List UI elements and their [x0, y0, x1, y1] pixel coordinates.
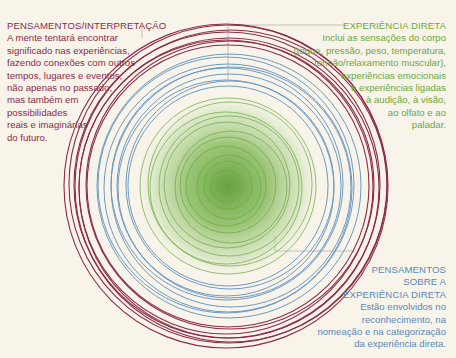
thoughts-text-line: Estão envolvidos no	[266, 301, 446, 313]
interpretation-text-line: do futuro.	[7, 132, 157, 144]
thoughts-text-line: da experiência direta.	[266, 338, 446, 350]
thoughts-text-line: nomeação e na categorização	[266, 326, 446, 338]
thoughts-title-line: EXPERIÊNCIA DIRETA	[266, 289, 446, 301]
interpretation-text-line: não apenas no passado,	[7, 82, 157, 94]
direct-experience-text-line: paladar.	[276, 119, 446, 131]
interpretation-text-line: possibilidades	[7, 107, 157, 119]
interpretation-text-line: tempos, lugares e eventos,	[7, 70, 157, 82]
direct-experience-text-line: (toque, pressão, peso, temperatura,	[276, 45, 446, 57]
interpretation-text-line: A mente tentará encontrar	[7, 32, 157, 44]
direct-experience-title: EXPERIÊNCIA DIRETA	[276, 20, 446, 32]
thoughts-title-line: PENSAMENTOS	[266, 264, 446, 276]
thoughts-title-line: SOBRE A	[266, 276, 446, 288]
interpretation-text-line: reais e imaginárias	[7, 119, 157, 131]
direct-experience-text-line: ao olfato e ao	[276, 107, 446, 119]
direct-experience-text-line: experiências emocionais	[276, 70, 446, 82]
interpretation-text-line: significado nas experiências,	[7, 45, 157, 57]
direct-experience-text-line: e experiências ligadas	[276, 82, 446, 94]
interpretation-text-line: mas também em	[7, 94, 157, 106]
direct-experience-label: EXPERIÊNCIA DIRETA Inclui as sensações d…	[276, 20, 446, 132]
thoughts-text-line: reconhecimento, na	[266, 314, 446, 326]
direct-experience-text-line: Inclui as sensações do corpo	[276, 32, 446, 44]
direct-experience-text-line: à audição, à visão,	[276, 94, 446, 106]
interpretation-label: PENSAMENTOS/INTERPRETAÇÃO A mente tentar…	[7, 20, 157, 144]
interpretation-text-line: fazendo conexões com outros	[7, 57, 157, 69]
interpretation-title: PENSAMENTOS/INTERPRETAÇÃO	[7, 20, 157, 32]
direct-experience-text-line: tensão/relaxamento muscular),	[276, 57, 446, 69]
thoughts-about-experience-label: PENSAMENTOS SOBRE A EXPERIÊNCIA DIRETA E…	[266, 264, 446, 351]
